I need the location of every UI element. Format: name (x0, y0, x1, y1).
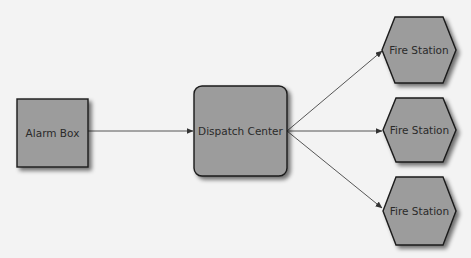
dispatch-center-label: Dispatch Center (198, 125, 283, 137)
flowchart: Alarm Box Dispatch Center Fire Station F… (0, 0, 471, 258)
node-fire-station-1[interactable]: Fire Station (382, 17, 456, 83)
alarm-box-label: Alarm Box (26, 127, 80, 139)
node-fire-station-3[interactable]: Fire Station (383, 177, 456, 245)
edge-dispatch-to-fire-station-1 (287, 51, 382, 131)
fire-station-1-label: Fire Station (389, 44, 448, 56)
fire-station-2-label: Fire Station (390, 124, 449, 136)
diagram-canvas: Alarm Box Dispatch Center Fire Station F… (0, 0, 471, 258)
node-alarm-box[interactable]: Alarm Box (17, 99, 88, 167)
node-fire-station-2[interactable]: Fire Station (383, 98, 456, 162)
edge-dispatch-to-fire-station-3 (287, 131, 382, 208)
fire-station-3-label: Fire Station (390, 205, 449, 217)
node-dispatch-center[interactable]: Dispatch Center (194, 86, 287, 176)
